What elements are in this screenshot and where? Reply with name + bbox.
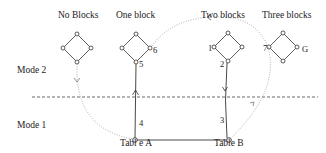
state-graph-two-blocks (212, 31, 244, 63)
state-graph-no-blocks (61, 32, 93, 64)
column-title-no-blocks: No Blocks (58, 11, 98, 21)
diagram-graphics (0, 0, 326, 153)
node-label-6: 6 (153, 46, 157, 55)
dotted-path-6-to-7 (152, 17, 270, 137)
mode-2-label: Mode 2 (17, 66, 46, 76)
table-a-label: Tabl e A (120, 139, 152, 149)
path-4-to-5 (135, 64, 136, 138)
column-title-one-block: One block (116, 11, 155, 21)
goal-label: G (302, 45, 308, 54)
dotted-path-noblocks-to-4 (77, 64, 133, 139)
node-label-5: 5 (139, 60, 143, 69)
node-label-4: 4 (139, 119, 143, 128)
node-label-1: 1 (208, 44, 212, 53)
node-label-2: 2 (220, 60, 224, 69)
diagram-canvas: No Blocks One block Two blocks Three blo… (0, 0, 326, 153)
table-b-label: Table B (214, 139, 244, 149)
node-label-3: 3 (220, 116, 224, 125)
arrow-up-right-icon (250, 102, 254, 106)
node-label-7: 7 (263, 44, 267, 53)
column-title-three-blocks: Three blocks (262, 11, 311, 21)
column-title-two-blocks: Two blocks (201, 11, 245, 21)
path-2-to-3 (226, 63, 228, 138)
state-graph-three-blocks (267, 31, 299, 63)
state-graph-one-block (120, 32, 152, 64)
mode-1-label: Mode 1 (17, 121, 46, 131)
arrow-down-icon (223, 87, 228, 91)
